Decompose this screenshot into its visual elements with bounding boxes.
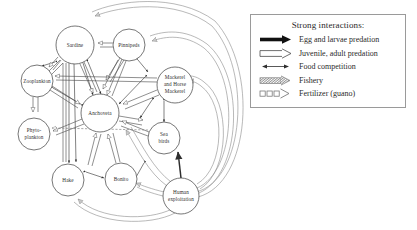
node-label-pinnipeds: Pinnipeds: [118, 42, 139, 48]
legend-label-egg-larvae-predation: Egg and larvae predation: [299, 34, 379, 45]
legend-label-fertilizer-guano: Fertilizer (guano): [299, 88, 355, 99]
legend-item-juvenile-adult-predation: Juvenile, adult predation: [258, 47, 398, 61]
node-anchoveta[interactable]: Anchoveta: [81, 94, 119, 132]
legend-panel: Strong interactions: Egg and larvae pred…: [250, 14, 406, 108]
edge-hake-bonito: [86, 172, 104, 178]
node-label-seabirds-line1: Sea: [160, 131, 168, 137]
node-label-bonito: Bonito: [114, 176, 129, 182]
node-label-human-line2: exploitation: [168, 196, 194, 202]
edge-sardine-anchoveta-comp2: [88, 62, 101, 94]
legend-swatch-egg-larvae-predation: [258, 34, 296, 45]
legend-label-juvenile-adult-predation: Juvenile, adult predation: [299, 48, 378, 59]
node-label-human-line1: Human: [173, 189, 189, 195]
nodes: Sardine Pinnipeds Zooplankton Mackerel a…: [18, 26, 199, 214]
edge-sardine-hake-pred: [63, 63, 66, 162]
node-zooplankton[interactable]: Zooplankton: [21, 65, 53, 97]
legend-swatch-fertilizer-guano: [258, 88, 296, 99]
node-label-anchoveta: Anchoveta: [88, 110, 112, 116]
edge-sardine-hake2: [74, 64, 76, 162]
edge-anchoveta-right: [119, 116, 143, 125]
edge-anchoveta-phytoplankton: [53, 119, 84, 135]
node-label-hake: Hake: [62, 177, 74, 183]
legend-title: Strong interactions:: [258, 20, 398, 30]
legend-swatch-fishery: [258, 75, 296, 86]
node-human-exploitation[interactable]: Human exploitation: [163, 178, 199, 214]
legend-item-fishery: Fishery: [258, 74, 398, 88]
edge-zooplankton-anchoveta: [50, 86, 80, 108]
legend-swatch-food-competition: [258, 61, 296, 72]
edge-mackerel-anchoveta-comp: [140, 100, 152, 118]
node-seabirds[interactable]: Sea birds: [148, 122, 180, 154]
node-label-phytoplankton-line2: plankton: [25, 134, 44, 140]
edge-mackerel-anchoveta: [123, 90, 159, 109]
legend-item-egg-larvae-predation: Egg and larvae predation: [258, 33, 398, 47]
edge-fishery-hake: [74, 199, 175, 221]
legend-label-fishery: Fishery: [299, 75, 323, 86]
node-hake[interactable]: Hake: [52, 164, 84, 196]
edge-zooplankton-phytoplankton: [33, 97, 38, 112]
node-sardine[interactable]: Sardine: [56, 26, 94, 64]
edge-hake-anchoveta: [88, 133, 101, 166]
edge-fishery-mackerel: [189, 76, 223, 189]
edge-fishery-bonito: [136, 183, 164, 196]
node-pinnipeds[interactable]: Pinnipeds: [113, 29, 145, 61]
edges-egg-larvae-predation: [178, 152, 181, 178]
diagram-stage: Sardine Pinnipeds Zooplankton Mackerel a…: [0, 0, 417, 230]
node-bonito[interactable]: Bonito: [105, 163, 137, 195]
node-label-zooplankton: Zooplankton: [23, 78, 51, 84]
legend-swatch-juvenile-adult-predation: [258, 48, 296, 59]
legend-item-fertilizer-guano: Fertilizer (guano): [258, 87, 398, 101]
node-label-seabirds-line2: birds: [159, 138, 170, 144]
edge-mackerel-zooplankton: [55, 76, 157, 82]
edge-bonito-anchoveta: [108, 133, 120, 163]
node-mackerel[interactable]: Mackerel and Horse Mackerel: [157, 67, 193, 103]
node-label-mackerel-line2: and Horse: [164, 81, 187, 87]
edge-pinnipeds-mackerel: [138, 60, 148, 72]
node-phytoplankton[interactable]: Phyto- plankton: [18, 118, 50, 150]
legend-item-food-competition: Food competition: [258, 60, 398, 74]
edge-human-seabirds-solid: [178, 152, 181, 178]
legend-label-food-competition: Food competition: [299, 61, 356, 72]
node-label-mackerel-line3: Mackerel: [165, 88, 186, 94]
node-label-sardine: Sardine: [67, 42, 84, 48]
edge-pinnipeds-sardine: [98, 43, 113, 47]
node-label-mackerel-line1: Mackerel: [165, 74, 186, 80]
node-label-phytoplankton-line1: Phyto-: [27, 127, 42, 133]
